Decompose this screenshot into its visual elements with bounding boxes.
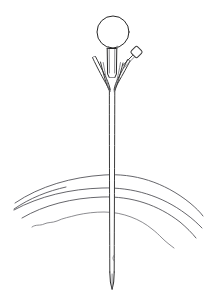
side-port-group (123, 46, 143, 68)
balloon-group (97, 16, 129, 49)
hub-body-fill (107, 48, 117, 76)
illustration-canvas: Anatomical Line Drawing (0, 0, 210, 301)
needle-in-tissue-figure (0, 0, 210, 301)
tissue-arc-4-lower (22, 197, 196, 238)
needle-shaft-group (109, 88, 115, 290)
left-wing-tip-cap (93, 56, 96, 57)
tissue-arc-5-deep-irregular (32, 212, 174, 248)
hub-group (107, 48, 117, 78)
tissue-layers-group (14, 175, 203, 248)
shaft-right-wall (114, 88, 115, 272)
tissue-arc-1-outer (15, 175, 203, 216)
